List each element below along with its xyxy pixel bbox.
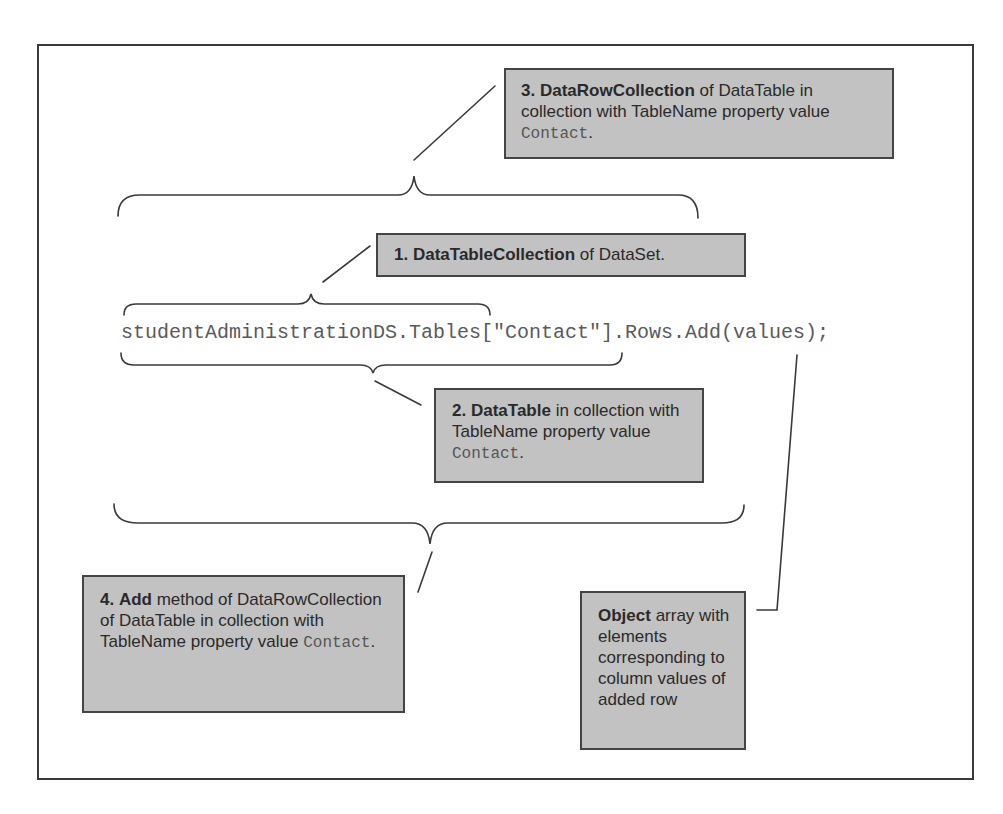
callout-code: Contact [521,125,588,143]
leader-box2 [375,381,421,405]
brace-datatable [121,353,622,373]
callout-datarowcollection: 3. DataRowCollection of DataTable in col… [504,68,894,159]
leader-box3 [414,86,495,160]
callout-datatablecollection: 1. DataTableCollection of DataSet. [376,233,746,277]
callout-code: Contact [303,634,370,652]
callout-number: 1. [394,245,408,264]
callout-number: 3. [521,81,535,100]
callout-term: DataTable [471,401,551,420]
callout-term: Object [598,606,651,625]
callout-object-array: Object array with elements corresponding… [580,591,746,750]
callout-term: DataTableCollection [413,245,575,264]
leader-box1 [323,246,370,282]
callout-term: DataRowCollection [540,81,695,100]
callout-add-method: 4. Add method of DataRowCollection of Da… [82,575,405,713]
callout-number: 4. [100,590,114,609]
leader-object [757,355,797,610]
callout-number: 2. [452,401,466,420]
callout-end: . [370,632,375,651]
code-statement: studentAdministrationDS.Tables["Contact"… [121,321,829,345]
callout-datatable: 2. DataTable in collection with TableNam… [434,388,704,483]
brace-add [114,504,744,544]
callout-code: Contact [452,445,519,463]
leader-box4 [418,552,432,592]
callout-text: of DataSet. [575,245,665,264]
callout-end: . [588,123,593,142]
callout-term: Add [119,590,152,609]
callout-end: . [519,443,524,462]
brace-datatablecollection [124,294,490,315]
brace-datarowcollection [118,176,698,218]
